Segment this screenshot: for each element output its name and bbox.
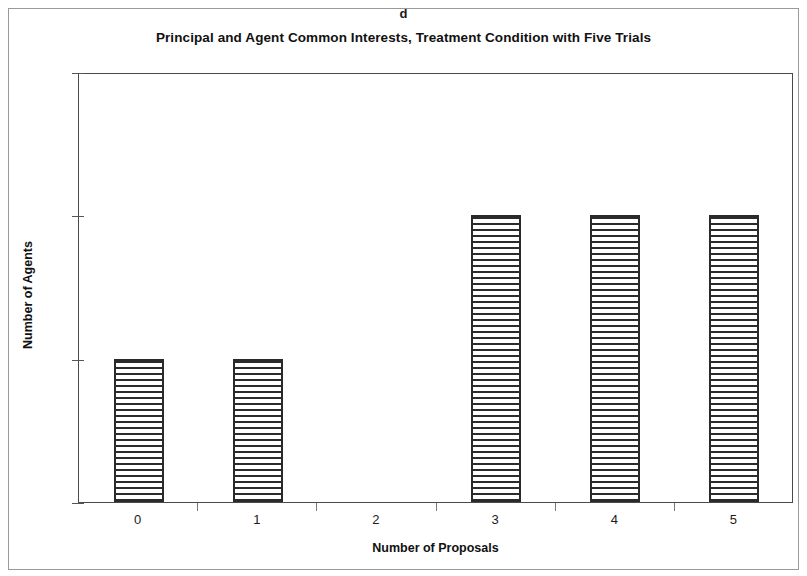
panel-letter: d (0, 6, 807, 21)
x-tick-label: 3 (465, 512, 525, 527)
x-tick-label: 2 (346, 512, 406, 527)
x-tick-mark (316, 503, 317, 511)
x-tick-mark (555, 503, 556, 511)
x-tick-label: 4 (584, 512, 644, 527)
chart-title: Principal and Agent Common Interests, Tr… (0, 30, 807, 45)
x-tick-mark (674, 503, 675, 511)
x-tick-mark (436, 503, 437, 511)
y-tick-mark (72, 503, 84, 504)
y-tick-mark (72, 216, 84, 217)
plot-area (78, 73, 793, 503)
x-tick-label: 0 (108, 512, 168, 527)
bar-4 (590, 215, 640, 502)
bar-0 (114, 359, 164, 502)
x-tick-label: 1 (227, 512, 287, 527)
y-tick-mark (72, 73, 84, 74)
y-axis-title: Number of Agents (21, 205, 35, 385)
bar-5 (709, 215, 759, 502)
x-tick-mark (197, 503, 198, 511)
bars-layer (79, 74, 792, 502)
bar-1 (233, 359, 283, 502)
bar-3 (471, 215, 521, 502)
y-tick-mark (72, 360, 84, 361)
x-axis-title: Number of Proposals (78, 541, 793, 555)
x-tick-label: 5 (703, 512, 763, 527)
